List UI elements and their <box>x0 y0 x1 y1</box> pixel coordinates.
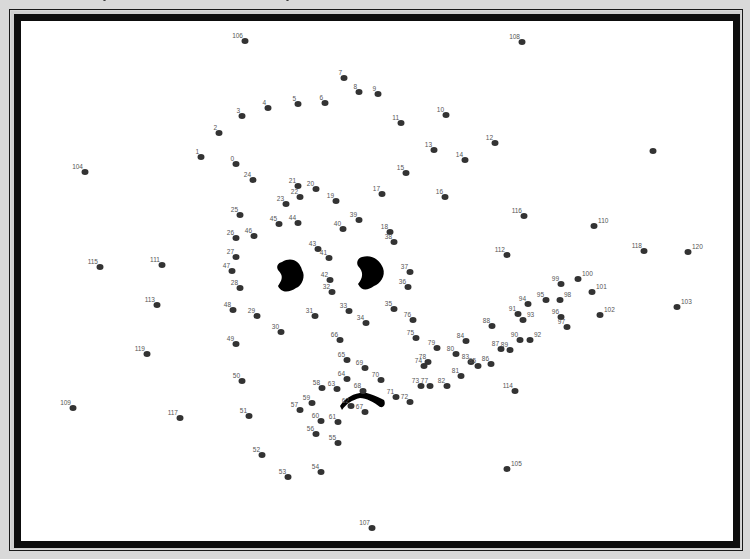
dot-label: 28 <box>231 280 238 287</box>
dot-label: 105 <box>511 461 522 468</box>
dot-label: 65 <box>338 352 345 359</box>
dot-label: 97 <box>558 319 565 326</box>
dot-label: 24 <box>244 172 251 179</box>
dot-label: 85 <box>469 358 476 365</box>
dot-label: 0 <box>230 156 234 163</box>
dot-label: 70 <box>372 372 379 379</box>
dot-label: 50 <box>233 373 240 380</box>
dot-label: 110 <box>598 218 608 225</box>
dot-label: 36 <box>399 279 406 286</box>
dot-label: 59 <box>303 395 310 402</box>
dot-label: 95 <box>537 292 544 299</box>
dot-120 <box>685 249 692 255</box>
dot-label: 17 <box>373 186 380 193</box>
dot-label: 53 <box>279 469 286 476</box>
dot-label: 56 <box>307 426 314 433</box>
dot-label: 84 <box>457 333 464 340</box>
dot-label: 116 <box>512 208 522 215</box>
dot-label: 106 <box>232 33 243 40</box>
dot-label: 119 <box>135 346 145 353</box>
dot-label: 99 <box>552 276 559 283</box>
dot-label: 75 <box>407 330 414 337</box>
dot-label: 16 <box>436 189 443 196</box>
dot-label: 6 <box>319 95 323 102</box>
dot-label: 21 <box>289 178 296 185</box>
dot-label: 117 <box>168 410 178 417</box>
dot-label: 58 <box>313 380 320 387</box>
dot-label: 108 <box>509 34 520 41</box>
dot-label: 32 <box>323 284 330 291</box>
dot-label: 54 <box>312 464 319 471</box>
dot-label: 113 <box>145 297 155 304</box>
dot-label: 8 <box>353 84 357 91</box>
dot-label: 72 <box>401 394 408 401</box>
dot-label: 57 <box>291 402 298 409</box>
right-eye-shape <box>357 256 384 289</box>
dot-label: 63 <box>328 381 335 388</box>
dot-label: 12 <box>486 135 493 142</box>
dot-label: 104 <box>72 164 83 171</box>
dot-label: 42 <box>321 272 328 279</box>
dot-100 <box>575 276 582 282</box>
dot-label: 73 <box>412 378 419 385</box>
dot-label: 55 <box>329 435 336 442</box>
dot-label: 87 <box>492 341 499 348</box>
dot-label: 13 <box>425 142 432 149</box>
dot-93 <box>520 317 527 323</box>
dot-label: 120 <box>692 244 703 251</box>
puzzle-board: 0123456789101112131415161718192021222324… <box>0 0 750 559</box>
dot-label: 14 <box>456 152 463 159</box>
dot-102 <box>597 312 604 318</box>
dot-label: 114 <box>503 383 513 390</box>
dot-label: 51 <box>240 408 247 415</box>
dot-label: 118 <box>632 243 642 250</box>
dot-label: 90 <box>511 332 518 339</box>
dot-label: 48 <box>224 302 231 309</box>
dot-label: 9 <box>372 86 376 93</box>
dot-label: 93 <box>527 312 534 319</box>
dot-label: 4 <box>262 100 266 107</box>
dot-label: 47 <box>223 263 230 270</box>
dot-label: 26 <box>227 230 234 237</box>
dot-label: 52 <box>253 447 260 454</box>
dot-label: 64 <box>338 371 345 378</box>
dot-label: 62 <box>342 398 349 405</box>
dot-label: 45 <box>270 216 277 223</box>
dot-label: 39 <box>350 212 357 219</box>
dot-label: 25 <box>231 207 238 214</box>
dot-label: 86 <box>482 356 489 363</box>
dot-label: 30 <box>272 324 279 331</box>
dot-label: 88 <box>483 318 490 325</box>
dot-103 <box>674 304 681 310</box>
dot-label: 37 <box>401 264 408 271</box>
dot-label: 7 <box>338 70 342 77</box>
dot-label: 89 <box>501 342 508 349</box>
dot-label: 103 <box>681 299 692 306</box>
dot-label: 79 <box>428 340 435 347</box>
dot-label: 94 <box>519 296 526 303</box>
dot-92 <box>527 337 534 343</box>
dot-label: 49 <box>227 336 234 343</box>
dot-label: 115 <box>88 259 98 266</box>
dot-label: 29 <box>248 308 255 315</box>
dot-label: 10 <box>437 107 444 114</box>
dot-label: 40 <box>334 221 341 228</box>
dot-label: 101 <box>596 284 607 291</box>
dot-label: 112 <box>495 247 505 254</box>
dot-label: 109 <box>60 400 71 407</box>
dot-98 <box>557 297 564 303</box>
dot-label: 33 <box>340 303 347 310</box>
dot-label: 80 <box>447 346 454 353</box>
dot-label: 27 <box>227 249 234 256</box>
dot-label: 43 <box>309 241 316 248</box>
dot-label: 20 <box>307 181 314 188</box>
dot-label: 66 <box>331 332 338 339</box>
dot-label: 61 <box>329 414 336 421</box>
dot-label: 92 <box>534 332 541 339</box>
dot-label: 34 <box>357 315 364 322</box>
dot-label: 60 <box>312 413 319 420</box>
dot-label: 82 <box>438 378 445 385</box>
dot-label: 15 <box>397 165 404 172</box>
dot-label: 2 <box>213 125 217 132</box>
dot-label: 3 <box>236 108 240 115</box>
